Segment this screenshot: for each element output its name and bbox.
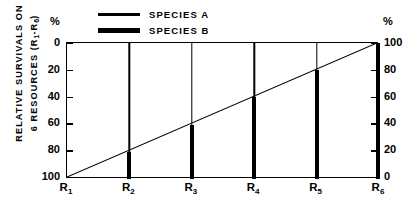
x-axis-tick-labels: R1R2R3R4R5R6 <box>66 181 378 201</box>
species-b-bar <box>190 125 194 179</box>
right-axis-tick-label: 0 <box>384 171 416 182</box>
species-a-vertical-line <box>316 43 317 70</box>
left-axis-tick-label: 40 <box>28 91 60 102</box>
species-b-bar <box>252 97 256 179</box>
left-axis-tick-labels: 020406080100 <box>28 42 62 178</box>
left-axis-tick <box>67 70 73 71</box>
left-axis-tick <box>67 43 73 44</box>
legend-label-species-b: SPECIES B <box>149 26 210 36</box>
x-axis-tick-label: R2 <box>122 181 135 196</box>
x-axis-tick-sub: 3 <box>193 187 197 196</box>
x-axis-tick-sub: 4 <box>255 187 259 196</box>
species-a-vertical-line <box>129 43 130 152</box>
x-axis-tick-label: R5 <box>309 181 322 196</box>
legend-item-species-a: SPECIES A <box>98 8 210 21</box>
species-a-vertical-line <box>253 43 254 97</box>
x-axis-tick-label: R6 <box>372 181 385 196</box>
y-axis-caption-post: ) <box>29 15 39 19</box>
x-axis-tick-sub: 1 <box>68 187 72 196</box>
x-axis-tick-label: R1 <box>60 181 73 196</box>
left-axis-tick-label: 0 <box>28 37 60 48</box>
chart-legend: SPECIES A SPECIES B <box>98 8 210 40</box>
left-axis-tick-label: 80 <box>28 144 60 155</box>
chart-figure: SPECIES A SPECIES B RELATIVE SURVIVALS O… <box>0 0 417 204</box>
species-b-bar <box>315 70 319 179</box>
left-axis-tick <box>67 123 73 124</box>
legend-label-species-a: SPECIES A <box>149 10 209 20</box>
y-axis-caption-line-1: RELATIVE SURVIVALS ON <box>12 0 27 161</box>
legend-item-species-b: SPECIES B <box>98 24 210 37</box>
x-axis-tick-sub: 2 <box>130 187 134 196</box>
x-axis-tick-sub: 5 <box>318 187 322 196</box>
plot-area <box>66 42 378 178</box>
right-axis-unit-label: % <box>383 15 393 27</box>
right-axis-tick-label: 60 <box>384 91 416 102</box>
legend-swatch-species-b-icon <box>98 28 140 33</box>
legend-swatch-species-a-icon <box>98 13 140 16</box>
right-axis-tick-label: 100 <box>384 37 416 48</box>
species-b-bar <box>376 43 380 179</box>
x-axis-tick-sub: 6 <box>380 187 384 196</box>
left-axis-tick-label: 60 <box>28 117 60 128</box>
right-axis-tick-label: 40 <box>384 117 416 128</box>
species-a-line <box>67 43 377 177</box>
left-axis-tick-label: 20 <box>28 64 60 75</box>
y-axis-caption-sub-2: 6 <box>33 19 40 23</box>
right-axis-tick-labels: 100806040200 <box>384 42 417 178</box>
x-axis-tick-label: R3 <box>184 181 197 196</box>
right-axis-tick-label: 80 <box>384 64 416 75</box>
left-axis-tick <box>67 150 73 151</box>
left-axis-tick <box>67 177 73 178</box>
x-axis-tick-label: R4 <box>247 181 260 196</box>
left-axis-tick-label: 100 <box>28 171 60 182</box>
left-axis-unit-label: % <box>50 15 60 27</box>
plot-inner <box>67 43 377 177</box>
y-axis-caption-mid: -R <box>29 23 39 35</box>
species-a-vertical-line <box>191 43 192 125</box>
left-axis-tick <box>67 97 73 98</box>
species-b-bar <box>127 152 131 179</box>
right-axis-tick-label: 20 <box>384 144 416 155</box>
